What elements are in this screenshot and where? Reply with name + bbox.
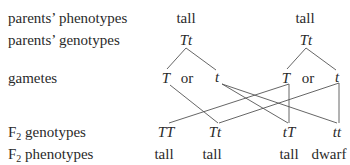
cross-lines — [0, 0, 350, 165]
line-T2-to-TT — [169, 84, 289, 123]
line-p2-to-t — [306, 48, 336, 70]
line-p1-to-t — [186, 48, 216, 70]
line-p2-to-T — [287, 48, 306, 69]
line-T1-to-Tt — [170, 85, 218, 123]
line-p1-to-T — [167, 48, 186, 69]
